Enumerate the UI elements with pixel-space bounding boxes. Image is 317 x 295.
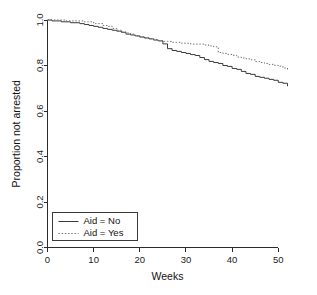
x-tick-label: 40 (227, 254, 238, 265)
series-line-0 (48, 20, 288, 86)
y-tick-label: 0.6 (34, 104, 45, 117)
y-tick-label: 0.2 (34, 195, 45, 208)
legend-label-1: Aid = Yes (84, 227, 124, 238)
x-tick-label: 30 (181, 254, 192, 265)
x-axis-group: 01020304050 Weeks (45, 248, 284, 282)
x-axis-ticks: 01020304050 (45, 248, 284, 265)
y-axis-ticks: 0.00.20.40.60.81.0 (34, 13, 47, 254)
y-tick-label: 1.0 (34, 13, 45, 26)
x-tick-label: 20 (135, 254, 146, 265)
x-tick-label: 0 (45, 254, 50, 265)
chart-container: 0.00.20.40.60.81.0 Proportion not arrest… (0, 0, 317, 295)
x-tick-label: 50 (273, 254, 284, 265)
y-tick-label: 0.8 (34, 59, 45, 72)
x-axis-title: Weeks (152, 270, 184, 282)
x-tick-label: 10 (88, 254, 99, 265)
legend-label-0: Aid = No (84, 215, 121, 226)
kaplan-meier-chart: 0.00.20.40.60.81.0 Proportion not arrest… (0, 0, 317, 295)
y-tick-label: 0.4 (34, 150, 45, 163)
y-tick-label: 0.0 (34, 241, 45, 254)
y-axis-title: Proportion not arrested (10, 80, 22, 188)
chart-legend: Aid = NoAid = Yes (53, 213, 138, 241)
series-group (48, 20, 288, 86)
y-axis-group: 0.00.20.40.60.81.0 Proportion not arrest… (10, 13, 48, 254)
